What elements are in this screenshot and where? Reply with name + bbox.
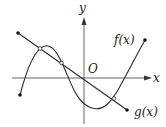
y-axis-arrow-icon [82, 17, 87, 25]
f-curve [20, 40, 145, 109]
f-label: f(x) [114, 34, 135, 46]
g-line [18, 33, 127, 110]
f-right-endpoint [143, 38, 147, 42]
x-axis-label: x [153, 72, 160, 84]
g-right-endpoint [125, 108, 129, 112]
g-label: g(x) [134, 106, 158, 118]
intersection-2 [60, 61, 64, 65]
origin-label: O [88, 63, 98, 75]
intersection-3 [112, 97, 116, 101]
g-left-endpoint [16, 31, 20, 35]
f-left-endpoint [18, 93, 22, 97]
y-axis-label: y [79, 2, 86, 14]
x-axis-arrow-icon [144, 76, 152, 81]
intersection-1 [38, 47, 42, 51]
